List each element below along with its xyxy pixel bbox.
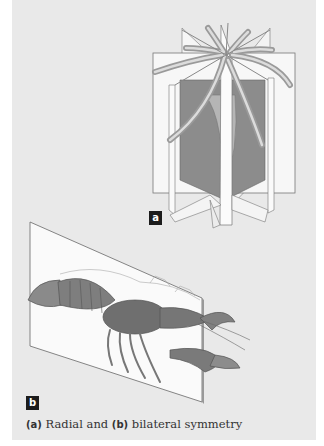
- caption-label-b: (b): [112, 419, 128, 430]
- radial-symmetry-figure: [153, 23, 295, 228]
- caption-text-a: Radial and: [42, 417, 112, 431]
- figure-caption: (a) Radial and (b) bilateral symmetry: [26, 417, 242, 431]
- panel-a-badge: a: [149, 211, 162, 225]
- caption-label-a: (a): [26, 419, 42, 430]
- symmetry-illustration: [0, 0, 324, 446]
- panel-b-badge: b: [26, 396, 39, 410]
- bilateral-symmetry-figure: [28, 222, 250, 404]
- caption-text-b: bilateral symmetry: [128, 417, 242, 431]
